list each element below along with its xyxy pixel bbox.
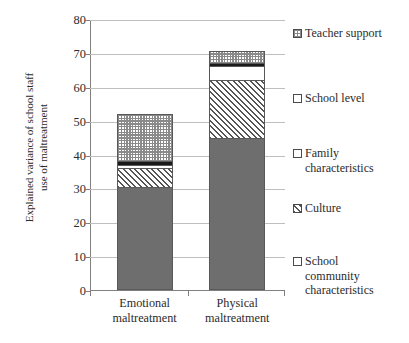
bar-segment-teacher-support[interactable] <box>117 114 173 161</box>
bar-segment-school-community-characteristics[interactable] <box>209 138 265 290</box>
legend-item-school-level[interactable]: School level <box>293 91 409 106</box>
gridline-80 <box>90 20 285 21</box>
y-tick-label-50: 50 <box>56 115 86 129</box>
legend-label: School community characteristics <box>305 254 374 298</box>
x-label-0: Emotionalmaltreatment <box>95 296 195 326</box>
y-tick-50 <box>85 122 90 123</box>
legend-label: Family characteristics <box>305 146 374 175</box>
y-tick-30 <box>85 189 90 190</box>
y-tick-label-60: 60 <box>56 81 86 95</box>
y-axis-title-line-1: Explained variance of school staff <box>22 5 36 290</box>
x-label-1: Physicalmaltreatment <box>187 296 287 326</box>
legend-label: Culture <box>305 201 341 216</box>
legend-item-family-characteristics[interactable]: Family characteristics <box>293 146 409 175</box>
bar-segment-school-community-characteristics[interactable] <box>117 187 173 290</box>
legend-swatch-icon <box>293 29 302 38</box>
chart-legend: Teacher supportSchool levelFamily charac… <box>293 26 409 316</box>
legend-swatch-icon <box>293 149 302 158</box>
y-tick-label-0: 0 <box>56 284 86 298</box>
x-axis-category-labels: EmotionalmaltreatmentPhysicalmaltreatmen… <box>90 296 285 340</box>
bar-segment-culture[interactable] <box>117 168 173 187</box>
legend-swatch-icon <box>293 204 302 213</box>
y-axis-title-line-2: use of maltreatment <box>36 5 50 290</box>
plot-area <box>90 20 285 291</box>
y-axis-title: Explained variance of school staff use o… <box>2 0 58 300</box>
legend-label: School level <box>305 91 365 106</box>
y-tick-60 <box>85 88 90 89</box>
y-tick-label-70: 70 <box>56 47 86 61</box>
y-tick-40 <box>85 156 90 157</box>
legend-item-school-community-characteristics[interactable]: School community characteristics <box>293 254 409 298</box>
bar-physical-maltreatment[interactable] <box>209 51 265 290</box>
y-tick-20 <box>85 223 90 224</box>
bar-emotional-maltreatment[interactable] <box>117 114 173 290</box>
y-axis-tick-labels: 01020304050607080 <box>56 12 86 297</box>
legend-swatch-icon <box>293 94 302 103</box>
y-tick-label-20: 20 <box>56 216 86 230</box>
stacked-bar-chart: Explained variance of school staff use o… <box>0 0 409 343</box>
y-tick-10 <box>85 257 90 258</box>
legend-label: Teacher support <box>305 26 382 41</box>
y-tick-80 <box>85 20 90 21</box>
legend-item-culture[interactable]: Culture <box>293 201 409 216</box>
bar-segment-culture[interactable] <box>209 80 265 138</box>
legend-swatch-icon <box>293 257 302 266</box>
y-tick-label-80: 80 <box>56 13 86 27</box>
legend-item-teacher-support[interactable]: Teacher support <box>293 26 409 41</box>
y-tick-70 <box>85 54 90 55</box>
y-tick-label-40: 40 <box>56 149 86 163</box>
bar-segment-teacher-support[interactable] <box>209 51 265 63</box>
y-tick-label-30: 30 <box>56 182 86 196</box>
bar-segment-family-characteristics[interactable] <box>209 66 265 80</box>
y-tick-label-10: 10 <box>56 250 86 264</box>
